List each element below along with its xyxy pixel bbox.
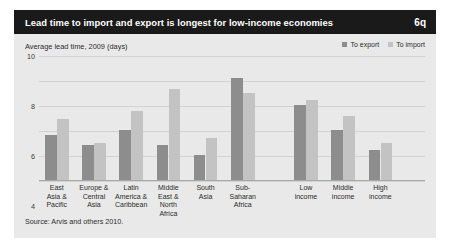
bar-to-import xyxy=(131,111,143,180)
bar-to-import xyxy=(169,89,181,180)
x-axis-label-line: Africa xyxy=(147,210,191,219)
figure-title-bar: Lead time to import and export is longes… xyxy=(14,10,436,34)
bar-to-export xyxy=(45,135,57,180)
bar-to-export xyxy=(369,150,381,180)
bar-group xyxy=(194,56,218,180)
bar-to-import xyxy=(57,119,69,180)
bar-to-import xyxy=(343,116,355,180)
legend-swatch-icon xyxy=(342,42,347,47)
bar-to-export xyxy=(82,145,94,180)
bar-to-export xyxy=(157,145,169,180)
bar-to-import xyxy=(381,143,393,181)
page-title: Lead time to import and export is longes… xyxy=(25,17,333,28)
x-axis-label-line: Sub- xyxy=(221,184,265,193)
y-axis-tick-label: 10 xyxy=(27,52,35,61)
plot-area: 0246810 xyxy=(39,56,425,181)
bars-layer xyxy=(39,56,425,181)
gridline: 0 xyxy=(39,181,425,182)
bar-group xyxy=(82,56,106,180)
legend-label: To export xyxy=(350,41,379,48)
figure-panel: Lead time to import and export is longes… xyxy=(14,10,436,238)
legend-swatch-icon xyxy=(388,42,393,47)
bar-group xyxy=(119,56,143,180)
x-axis-label-line: High xyxy=(359,184,403,193)
bar-to-export xyxy=(294,105,306,180)
bar-group xyxy=(157,56,181,180)
bar-group xyxy=(294,56,318,180)
chart-subtitle: Average lead time, 2009 (days) xyxy=(25,42,128,51)
y-axis-tick-label: 8 xyxy=(31,102,35,111)
bar-group xyxy=(45,56,69,180)
legend-item-to-import: To import xyxy=(388,41,425,48)
bar-to-import xyxy=(243,93,255,181)
chart-legend: To exportTo import xyxy=(342,41,425,48)
bar-group xyxy=(331,56,355,180)
y-axis-tick-label: 6 xyxy=(31,152,35,161)
bar-to-export xyxy=(194,155,206,180)
x-axis-label-line: income xyxy=(359,193,403,202)
source-note: Source: Arvis and others 2010. xyxy=(25,217,123,226)
x-axis-label-line: Africa xyxy=(221,201,265,210)
x-axis-label-line: North xyxy=(147,201,191,210)
bar-group xyxy=(231,56,255,180)
figure-number: 6q xyxy=(414,17,426,28)
bar-to-export xyxy=(231,78,243,181)
legend-label: To import xyxy=(396,41,425,48)
legend-item-to-export: To export xyxy=(342,41,379,48)
bar-to-export xyxy=(119,130,131,180)
bar-to-import xyxy=(94,143,106,181)
bar-to-import xyxy=(206,138,218,180)
x-axis-baseline xyxy=(39,180,425,181)
bar-to-import xyxy=(306,100,318,180)
x-axis-label-line: Saharan xyxy=(221,193,265,202)
x-axis-label: Highincome xyxy=(359,184,403,201)
bar-group xyxy=(369,56,393,180)
bar-to-export xyxy=(331,130,343,180)
x-axis-label: Sub-SaharanAfrica xyxy=(221,184,265,210)
